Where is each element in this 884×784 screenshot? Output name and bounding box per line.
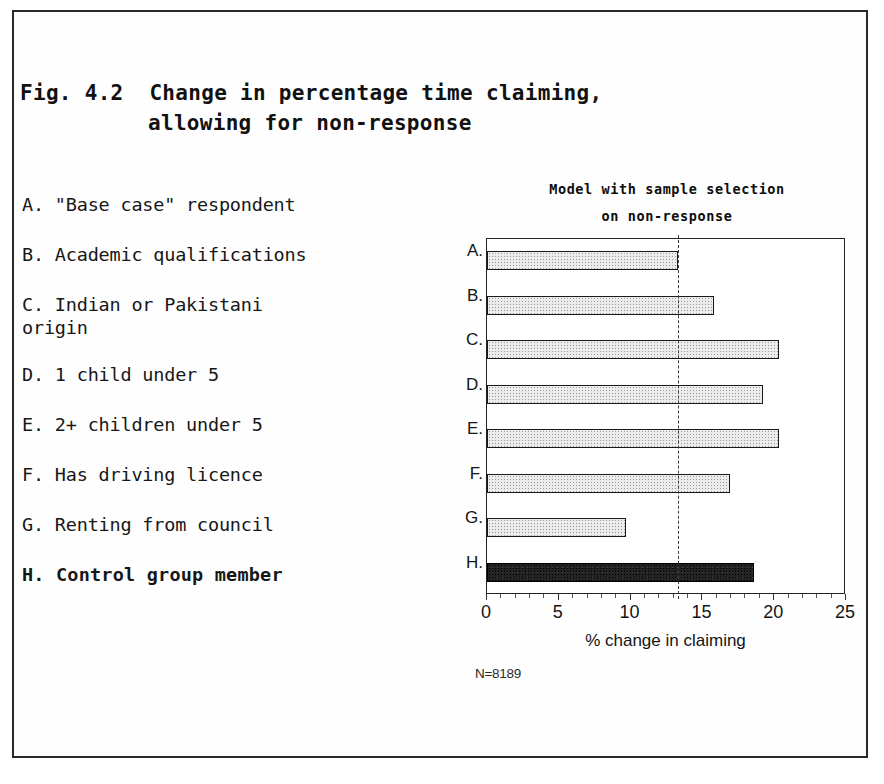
category-label-e: E. [459,419,483,439]
x-axis-minor-tick [658,594,659,598]
bar-a [487,251,678,270]
x-axis-minor-tick [529,594,530,598]
bar-g [487,518,626,537]
legend-item-d: D. 1 child under 5 [22,363,442,386]
category-label-d: D. [459,375,483,395]
x-axis-major-tick [558,594,559,600]
reference-line [678,235,679,599]
legend-item-c: C. Indian or Pakistani origin [22,293,442,339]
x-axis-minor-tick [744,594,745,598]
x-axis-label-15: 15 [691,602,711,623]
legend-key-list: A. "Base case" respondentB. Academic qua… [22,193,442,613]
bar-row: B. [487,284,844,329]
bar-e [487,429,779,448]
x-axis-ticks [486,594,845,602]
bar-c [487,340,779,359]
x-axis-minor-tick [687,594,688,598]
bar-row: E. [487,417,844,462]
x-axis-minor-tick [730,594,731,598]
bar-h [487,563,754,582]
x-axis-major-tick [701,594,702,600]
figure-caption-line-1: Fig. 4.2 Change in percentage time claim… [20,81,602,105]
category-label-h: H. [459,553,483,573]
bar-row: D. [487,373,844,418]
legend-item-f: F. Has driving licence [22,463,442,486]
x-axis-minor-tick [831,594,832,598]
legend-item-b: B. Academic qualifications [22,243,442,266]
x-axis-label-20: 20 [763,602,783,623]
bar-row: A. [487,239,844,284]
x-axis-minor-tick [759,594,760,598]
x-axis-label-10: 10 [620,602,640,623]
x-axis-minor-tick [572,594,573,598]
x-axis-major-tick [630,594,631,600]
legend-item-a: A. "Base case" respondent [22,193,442,216]
x-axis-minor-tick [543,594,544,598]
x-axis-label-25: 25 [835,602,855,623]
x-axis-minor-tick [587,594,588,598]
bars-layer: A.B.C.D.E.F.G.H. [487,239,844,593]
x-axis-minor-tick [615,594,616,598]
category-label-a: A. [459,241,483,261]
x-axis-major-tick [845,594,846,600]
chart-title: Model with sample selection on non-respo… [477,176,857,230]
chart-title-line-2: on non-response [477,203,857,230]
x-axis-minor-tick [816,594,817,598]
x-axis-minor-tick [601,594,602,598]
chart-title-line-1: Model with sample selection [477,176,857,203]
x-axis-major-tick [486,594,487,600]
x-axis-minor-tick [673,594,674,598]
bar-d [487,385,763,404]
x-axis-title: % change in claiming [486,631,845,651]
figure-caption-line-2: allowing for non-response [20,108,720,138]
bar-chart: Model with sample selection on non-respo… [455,176,865,696]
category-label-f: F. [459,464,483,484]
bar-row: H. [487,551,844,596]
legend-item-g: G. Renting from council [22,513,442,536]
sample-size-annotation: N=8189 [475,666,521,681]
x-axis-minor-tick [515,594,516,598]
bar-row: F. [487,462,844,507]
plot-area: A.B.C.D.E.F.G.H. [486,238,845,594]
x-axis-minor-tick [788,594,789,598]
bar-f [487,474,730,493]
x-axis-minor-tick [716,594,717,598]
bar-b [487,296,714,315]
x-axis-label-5: 5 [553,602,563,623]
x-axis-label-0: 0 [481,602,491,623]
bar-row: G. [487,506,844,551]
x-axis-major-tick [773,594,774,600]
category-label-g: G. [459,508,483,528]
category-label-b: B. [459,286,483,306]
legend-item-h: H. Control group member [22,563,442,586]
legend-item-e: E. 2+ children under 5 [22,413,442,436]
category-label-c: C. [459,330,483,350]
x-axis-tick-labels: 0510152025 [486,602,845,628]
x-axis-minor-tick [644,594,645,598]
x-axis-minor-tick [500,594,501,598]
x-axis-minor-tick [802,594,803,598]
bar-row: C. [487,328,844,373]
figure-caption: Fig. 4.2 Change in percentage time claim… [20,78,720,138]
